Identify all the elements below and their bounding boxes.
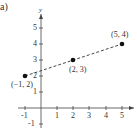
y-tick-label: 4: [33, 40, 37, 48]
x-tick-label: 4: [104, 112, 108, 120]
y-tick-label: -1: [28, 120, 35, 128]
x-tick-label: 1: [55, 112, 59, 120]
x-tick-label: 3: [87, 112, 91, 120]
point-b: [71, 58, 76, 63]
y-tick-label: 2: [33, 72, 37, 80]
x-tick-label: -1: [21, 112, 28, 120]
point-c: [120, 42, 125, 47]
point-label: (2, 3): [69, 66, 86, 74]
y-tick-label: 5: [33, 24, 37, 32]
x-axis-arrow-icon: [129, 106, 134, 110]
x-tick-label: 5: [120, 112, 124, 120]
point-label: (5, 4): [111, 31, 128, 39]
point-a: [23, 74, 28, 79]
y-tick-label: 3: [33, 56, 37, 64]
y-tick-label: 1: [33, 88, 37, 96]
y-axis-arrow-icon: [39, 14, 43, 19]
y-axis-label: y: [39, 7, 42, 14]
point-label: (−1, 2): [11, 81, 33, 89]
x-tick-label: 2: [71, 112, 75, 120]
